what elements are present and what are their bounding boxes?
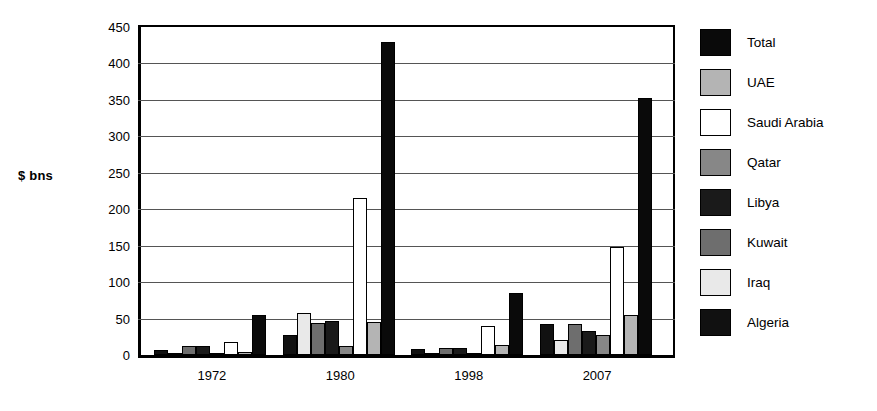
y-tick-label: 450 xyxy=(84,21,130,34)
y-tick-label: 200 xyxy=(84,203,130,216)
bar-iraq-2007[interactable] xyxy=(554,340,568,355)
bar-kuwait-1980[interactable] xyxy=(311,323,325,355)
legend-item-total[interactable]: Total xyxy=(700,22,870,62)
bar-qatar-1980[interactable] xyxy=(339,346,353,355)
legend-label: UAE xyxy=(747,75,775,90)
bar-uae-1980[interactable] xyxy=(367,322,381,355)
legend-swatch-icon xyxy=(700,149,731,176)
bar-uae-1972[interactable] xyxy=(238,352,252,355)
x-tick-label-1972: 1972 xyxy=(172,368,252,383)
legend-swatch-icon xyxy=(700,109,731,136)
legend-swatch-icon xyxy=(700,229,731,256)
bar-kuwait-2007[interactable] xyxy=(568,324,582,355)
y-tick-label: 100 xyxy=(84,276,130,289)
bar-saudi-1972[interactable] xyxy=(224,342,238,355)
bar-group-1980 xyxy=(283,27,398,355)
y-axis-tick-labels: 050100150200250300350400450 xyxy=(84,25,130,358)
bar-total-1998[interactable] xyxy=(509,293,523,355)
bar-algeria-1972[interactable] xyxy=(154,350,168,355)
legend-label: Total xyxy=(747,35,776,50)
legend-swatch-icon xyxy=(700,189,731,216)
bar-libya-1998[interactable] xyxy=(453,348,467,355)
bar-kuwait-1972[interactable] xyxy=(182,346,196,355)
bar-iraq-1980[interactable] xyxy=(297,313,311,355)
bar-libya-1980[interactable] xyxy=(325,321,339,355)
bar-algeria-1980[interactable] xyxy=(283,335,297,355)
y-tick-label: 150 xyxy=(84,239,130,252)
bar-qatar-2007[interactable] xyxy=(596,335,610,355)
y-tick-label: 350 xyxy=(84,93,130,106)
bar-total-2007[interactable] xyxy=(638,98,652,355)
bar-chart: $ bns 050100150200250300350400450 197219… xyxy=(0,0,877,411)
legend-label: Iraq xyxy=(747,275,770,290)
bar-libya-2007[interactable] xyxy=(582,331,596,355)
y-tick-label: 400 xyxy=(84,57,130,70)
y-axis-title: $ bns xyxy=(18,168,53,183)
legend-item-qatar[interactable]: Qatar xyxy=(700,142,870,182)
bar-libya-1972[interactable] xyxy=(196,346,210,355)
legend-swatch-icon xyxy=(700,29,731,56)
bar-group-1972 xyxy=(154,27,269,355)
bar-algeria-2007[interactable] xyxy=(540,324,554,355)
bar-qatar-1998[interactable] xyxy=(467,353,481,355)
bar-uae-2007[interactable] xyxy=(624,315,638,355)
legend-label: Saudi Arabia xyxy=(747,115,824,130)
legend-label: Qatar xyxy=(747,155,781,170)
legend-item-kuwait[interactable]: Kuwait xyxy=(700,222,870,262)
legend: TotalUAESaudi ArabiaQatarLibyaKuwaitIraq… xyxy=(700,22,870,342)
y-tick-label: 50 xyxy=(84,312,130,325)
legend-label: Libya xyxy=(747,195,779,210)
legend-item-libya[interactable]: Libya xyxy=(700,182,870,222)
bar-kuwait-1998[interactable] xyxy=(439,348,453,355)
legend-label: Kuwait xyxy=(747,235,788,250)
bar-iraq-1998[interactable] xyxy=(425,353,439,355)
bar-saudi-1998[interactable] xyxy=(481,326,495,355)
y-tick-label: 300 xyxy=(84,130,130,143)
y-tick-label: 250 xyxy=(84,166,130,179)
legend-item-iraq[interactable]: Iraq xyxy=(700,262,870,302)
bar-uae-1998[interactable] xyxy=(495,345,509,355)
legend-swatch-icon xyxy=(700,69,731,96)
plot-area xyxy=(138,25,675,358)
bar-iraq-1972[interactable] xyxy=(168,353,182,355)
legend-item-saudi[interactable]: Saudi Arabia xyxy=(700,102,870,142)
bar-group-1998 xyxy=(411,27,526,355)
bar-saudi-2007[interactable] xyxy=(610,247,624,355)
x-tick-label-1998: 1998 xyxy=(429,368,509,383)
x-tick-label-1980: 1980 xyxy=(300,368,380,383)
x-tick-label-2007: 2007 xyxy=(557,368,637,383)
legend-swatch-icon xyxy=(700,269,731,296)
legend-item-uae[interactable]: UAE xyxy=(700,62,870,102)
bars-container xyxy=(141,27,673,355)
legend-label: Algeria xyxy=(747,315,789,330)
bar-total-1972[interactable] xyxy=(252,315,266,355)
bar-total-1980[interactable] xyxy=(381,42,395,355)
legend-item-algeria[interactable]: Algeria xyxy=(700,302,870,342)
bar-algeria-1998[interactable] xyxy=(411,349,425,355)
bar-saudi-1980[interactable] xyxy=(353,198,367,355)
bar-group-2007 xyxy=(540,27,655,355)
legend-swatch-icon xyxy=(700,309,731,336)
y-tick-label: 0 xyxy=(84,349,130,362)
bar-qatar-1972[interactable] xyxy=(210,353,224,355)
